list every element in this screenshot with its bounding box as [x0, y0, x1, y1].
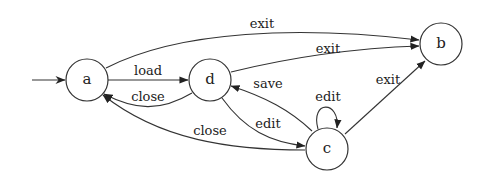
edge-label: edit [255, 116, 281, 131]
state-diagram: exit load close exit save edit edit exit… [0, 0, 487, 183]
edge-a-d-load: load [108, 63, 188, 80]
state-a: a [66, 59, 108, 101]
edge-label: exit [376, 72, 401, 87]
state-label: c [323, 139, 331, 157]
edge-label: close [131, 89, 165, 104]
state-c: c [306, 128, 348, 170]
edge-d-c-edit: edit [222, 98, 305, 146]
edge-c-b-exit: exit [345, 61, 425, 134]
edge-a-b-exit: exit [106, 16, 419, 68]
edge-label: exit [250, 16, 275, 31]
edge-c-c-edit: edit [315, 89, 341, 129]
edge-label: load [134, 63, 162, 78]
edge-label: close [193, 123, 227, 138]
edge-d-b-exit: exit [231, 41, 419, 72]
edge-label: edit [315, 89, 341, 104]
edge-label: save [253, 76, 283, 91]
state-b: b [420, 23, 462, 65]
edge-label: exit [316, 41, 341, 56]
state-d: d [189, 59, 231, 101]
state-label: a [83, 70, 92, 88]
state-label: d [205, 70, 215, 88]
state-label: b [436, 34, 446, 52]
edge-d-a-close: close [104, 89, 192, 107]
